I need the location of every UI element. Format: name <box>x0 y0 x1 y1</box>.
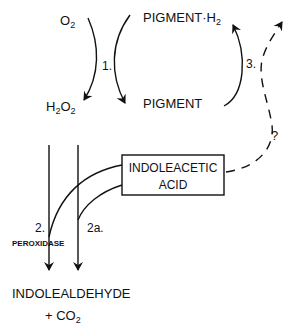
node-iaa-line1: INDOLEACETIC <box>129 161 218 175</box>
node-iaa-line2: ACID <box>159 178 188 192</box>
label-step3: 3. <box>246 57 256 71</box>
node-product-line1: INDOLEALDEHYDE <box>12 286 131 301</box>
arrow-pigmenth2-to-pigment <box>114 15 130 103</box>
arrow-pigment-to-pigmenth2 <box>224 25 242 106</box>
label-step2a: 2a. <box>87 221 104 235</box>
label-unknown: ? <box>271 128 278 143</box>
node-pigment-h2: PIGMENT·H2 <box>143 10 221 27</box>
node-pigment: PIGMENT <box>143 96 202 111</box>
label-step2: 2. <box>35 221 45 235</box>
arrow-o2-to-h2o2 <box>84 18 97 100</box>
label-step1: 1. <box>102 59 112 73</box>
curve-iaa-to-step2a <box>78 185 122 220</box>
node-h2o2: H2O2 <box>46 99 76 116</box>
pathway-diagram: O2 H2O2 PIGMENT·H2 PIGMENT 1. 3. ? INDOL… <box>0 0 291 326</box>
label-peroxidase: PEROXIDASE <box>12 239 65 248</box>
node-product-line2: + CO2 <box>45 308 81 325</box>
node-o2: O2 <box>60 13 75 30</box>
curve-iaa-to-step2 <box>49 165 122 237</box>
